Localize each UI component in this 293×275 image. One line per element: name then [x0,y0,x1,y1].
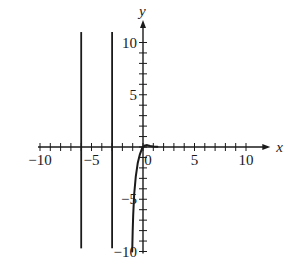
x-tick-label: 5 [191,152,199,168]
x-tick-label: 10 [239,152,254,168]
chart-svg: −10−50510105−5−10 xy [0,0,293,275]
chart-plot-area: −10−50510105−5−10 xy [0,0,293,275]
x-axis-label: x [275,139,283,155]
x-tick-label: −10 [28,152,51,168]
y-axis-arrow-icon [140,20,146,28]
y-tick-label: 5 [130,87,138,103]
x-tick-label: −5 [84,152,100,168]
y-tick-label: 10 [122,35,137,51]
axis-labels: xy [137,3,283,155]
y-axis-label: y [137,3,146,19]
y-tick-label: −10 [114,244,137,260]
data-series [81,32,157,251]
x-axis-arrow-icon [262,144,270,150]
x-tick-label: 0 [144,152,152,168]
axes [38,20,270,253]
